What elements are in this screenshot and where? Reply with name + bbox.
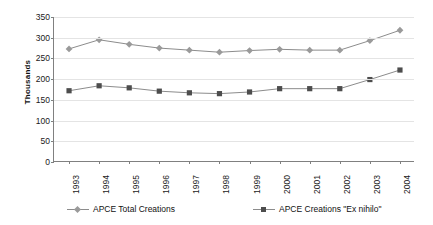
x-axis-tick-label: 2002	[343, 175, 352, 194]
y-axis-tick	[51, 58, 54, 59]
data-point-square	[277, 86, 282, 91]
gridline	[54, 17, 414, 18]
data-point-square	[127, 85, 132, 90]
data-point-square	[157, 89, 162, 94]
data-point-square	[187, 90, 192, 95]
y-axis-tick-label: 300	[28, 33, 50, 42]
y-axis-tick-label: 200	[28, 75, 50, 84]
series-layer	[54, 17, 415, 162]
y-axis-tick-label: 350	[28, 13, 50, 22]
x-axis-tick-label: 1996	[162, 175, 171, 194]
y-axis-tick	[51, 38, 54, 39]
line-chart: Thousands 050100150200250300350 19931994…	[0, 0, 433, 225]
x-axis-tick-label: 1995	[132, 175, 141, 194]
data-point-square	[217, 91, 222, 96]
data-point-square	[337, 86, 342, 91]
y-axis-tick	[51, 121, 54, 122]
y-axis-tick-label: 50	[28, 137, 50, 146]
x-axis-tick-label: 1998	[222, 175, 231, 194]
gridline	[54, 100, 414, 101]
data-point-diamond	[216, 49, 223, 56]
legend-marker-diamond-icon	[67, 205, 89, 214]
data-point-diamond	[246, 47, 253, 54]
data-point-diamond	[186, 47, 193, 54]
data-point-diamond	[397, 27, 404, 34]
y-axis-tick-label: 100	[28, 116, 50, 125]
y-axis-tick	[51, 100, 54, 101]
legend-marker-square-icon	[253, 205, 275, 214]
gridline	[54, 58, 414, 59]
x-axis-tick-labels: 1993199419951996199719981999200020012002…	[53, 164, 414, 200]
y-axis-tick	[51, 17, 54, 18]
chart-legend: APCE Total Creations APCE Creations "Ex …	[0, 199, 433, 219]
gridline	[54, 121, 414, 122]
y-axis-tick-label: 150	[28, 96, 50, 105]
x-axis-tick-label: 2004	[403, 175, 412, 194]
y-axis-tick	[51, 141, 54, 142]
legend-item-ex-nihilo[interactable]: APCE Creations "Ex nihilo"	[253, 204, 381, 214]
data-point-diamond	[306, 47, 313, 54]
x-axis-tick-label: 2001	[313, 175, 322, 194]
data-point-square	[397, 67, 402, 72]
data-point-diamond	[66, 46, 73, 53]
data-point-square	[307, 86, 312, 91]
data-point-square	[97, 83, 102, 88]
x-axis-tick-label: 1999	[253, 175, 262, 194]
data-point-square	[247, 89, 252, 94]
y-axis-tick-labels: 050100150200250300350	[26, 0, 50, 225]
gridline	[54, 79, 414, 80]
x-axis-tick-label: 1994	[102, 175, 111, 194]
x-axis-tick-label: 1997	[192, 175, 201, 194]
x-axis-tick-label: 2003	[373, 175, 382, 194]
data-point-diamond	[156, 45, 163, 52]
data-point-diamond	[336, 47, 343, 54]
series-line	[69, 30, 400, 52]
gridline	[54, 141, 414, 142]
y-axis-tick	[51, 79, 54, 80]
y-axis-tick-label: 250	[28, 54, 50, 63]
x-axis-tick-label: 2000	[283, 175, 292, 194]
series-line	[69, 70, 400, 94]
legend-item-total-creations[interactable]: APCE Total Creations	[67, 204, 175, 214]
data-point-diamond	[126, 41, 133, 48]
y-axis-tick-label: 0	[28, 158, 50, 167]
data-point-diamond	[276, 46, 283, 53]
legend-label: APCE Creations "Ex nihilo"	[279, 204, 381, 214]
plot-area	[53, 17, 414, 162]
x-axis-tick-label: 1993	[72, 175, 81, 194]
legend-label: APCE Total Creations	[93, 204, 175, 214]
y-axis-tick	[51, 162, 54, 163]
gridline	[54, 38, 414, 39]
data-point-square	[66, 88, 71, 93]
